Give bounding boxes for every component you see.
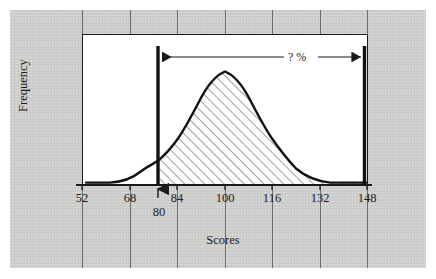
x-tick-label-116: 116 xyxy=(259,191,285,206)
x-tick-label-68: 68 xyxy=(120,191,140,206)
figure-container: ? % Frequency 52 68 84 100 116 132 148 8… xyxy=(0,0,436,279)
x-tick-label-132: 132 xyxy=(307,191,333,206)
shaded-region-hatch xyxy=(158,72,366,186)
x-tick-label-52: 52 xyxy=(72,191,92,206)
x-axis-title: Scores xyxy=(168,233,278,248)
x-tick-label-84: 84 xyxy=(167,191,187,206)
percent-annotation: ? % xyxy=(288,50,306,65)
x-tick-label-148: 148 xyxy=(354,191,380,206)
lower-bound-label: 80 xyxy=(148,205,170,220)
x-tick-label-100: 100 xyxy=(212,191,238,206)
y-axis-title: Frequency xyxy=(16,41,31,131)
shaded-area-group xyxy=(158,72,366,186)
